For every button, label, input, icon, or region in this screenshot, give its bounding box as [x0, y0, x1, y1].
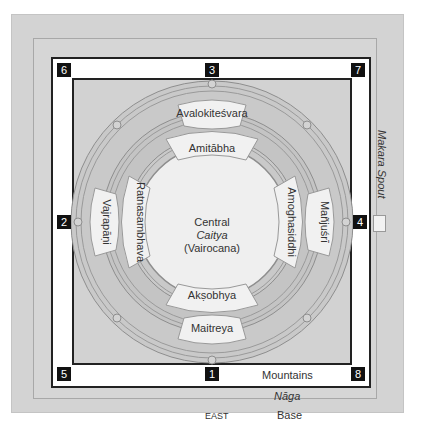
marker-8: 8 [351, 367, 365, 381]
central-label-2: Caitya [196, 229, 227, 241]
label-mountains: Mountains [262, 369, 313, 381]
label-amitabha: Amitābha [189, 142, 236, 154]
label-east: EAST [205, 411, 229, 421]
marker-4: 4 [353, 215, 367, 229]
central-label-1: Central [194, 216, 229, 228]
label-base: Base [277, 409, 302, 421]
label-makara-spout: Makara Spout [376, 130, 388, 198]
marker-2: 2 [57, 215, 71, 229]
label-naga: Nāga [274, 390, 300, 402]
label-vajrapani: Vajrapāṇi [101, 199, 113, 245]
label-avalokitesvara: Avalokiteśvara [176, 107, 248, 119]
label-amoghasiddhi: Amoghasiddhi [286, 187, 298, 257]
label-manjusri: Mañjuśrī [319, 201, 331, 244]
label-aksobhya: Akṣobhya [188, 289, 237, 301]
marker-1: 1 [205, 367, 219, 381]
marker-5: 5 [57, 367, 71, 381]
marker-3: 3 [205, 63, 219, 77]
central-label-3: (Vairocana) [184, 242, 240, 254]
label-ratnasambhava: Ratnasambhava [135, 182, 147, 263]
marker-6: 6 [57, 63, 71, 77]
marker-7: 7 [351, 63, 365, 77]
makara-spout-box [373, 215, 386, 232]
label-maitreya: Maitreya [191, 322, 234, 334]
